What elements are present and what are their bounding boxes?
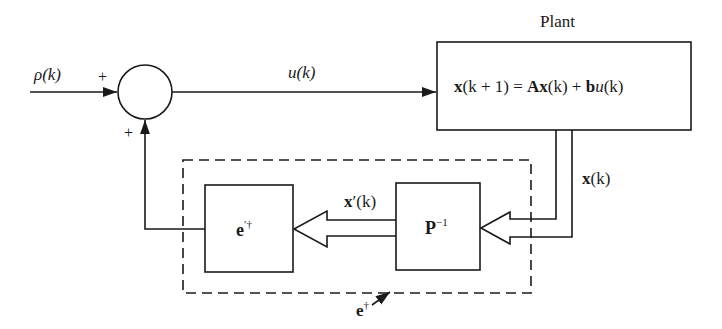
gain-block-label: e′†	[236, 218, 252, 240]
feedback-line	[145, 120, 205, 229]
summing-junction	[118, 65, 172, 119]
summing-plus-left: +	[98, 68, 107, 85]
state-signal-label: x(k)	[582, 169, 610, 188]
dashed-group-label: e†	[356, 299, 370, 320]
state-vector-arrow	[481, 130, 572, 244]
control-signal-label: u(k)	[288, 63, 316, 82]
block-diagram: ρ(k) + + u(k) Plant x(k + 1) = Ax(k) + b…	[0, 0, 722, 329]
transformed-state-arrow	[294, 211, 396, 247]
input-signal-label: ρ(k)	[33, 65, 61, 84]
transformed-state-label: x′(k)	[344, 192, 376, 211]
group-pointer-arrow	[372, 292, 390, 305]
transform-block-label: P−1	[425, 216, 448, 238]
summing-plus-bottom: +	[124, 124, 133, 141]
plant-title: Plant	[540, 12, 575, 31]
plant-equation: x(k + 1) = Ax(k) + bu(k)	[454, 77, 624, 96]
